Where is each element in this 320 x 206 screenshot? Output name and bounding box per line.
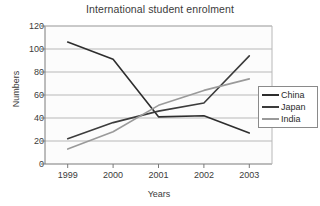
legend-swatch-india <box>262 118 279 120</box>
legend-swatch-china <box>262 94 279 96</box>
legend-item-india[interactable]: India <box>262 113 317 125</box>
legend-label: India <box>281 114 301 124</box>
legend-label: Japan <box>281 102 306 112</box>
legend: ChinaJapanIndia <box>258 86 318 128</box>
legend-item-japan[interactable]: Japan <box>262 101 317 113</box>
line-chart: International student enrolment Numbers … <box>0 0 320 206</box>
legend-item-china[interactable]: China <box>262 89 317 101</box>
legend-label: China <box>281 90 305 100</box>
legend-swatch-japan <box>262 106 279 108</box>
